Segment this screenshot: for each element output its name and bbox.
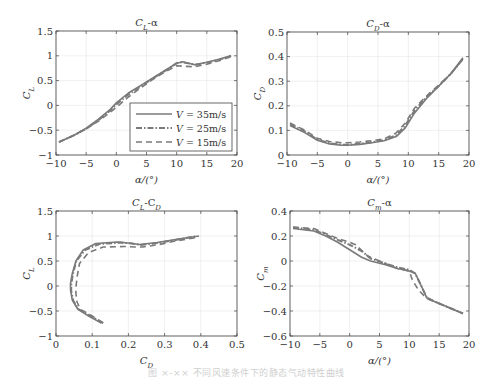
chart-cl-cd: 00.10.20.30.40.5−1−0.500.511.5CL-CDCDCL xyxy=(21,197,245,370)
x-tick-label: 10 xyxy=(403,339,416,350)
y-axis-label: CL xyxy=(21,267,36,280)
x-tick-label: 15 xyxy=(433,339,446,350)
x-tick-label: 15 xyxy=(200,158,213,169)
x-tick-label: 15 xyxy=(432,158,445,169)
chart-cl-alpha: −10−505101520−1−0.500.511.5CL-αα/(°)CLV … xyxy=(21,17,243,185)
x-tick-label: 0 xyxy=(53,339,59,350)
chart-title: CL-CD xyxy=(132,197,161,212)
y-tick-label: −1 xyxy=(38,150,53,161)
y-tick-label: 0 xyxy=(47,281,53,292)
chart-cm-alpha: −10−505101520−0.6−0.4−0.200.20.4Cm-αα/(°… xyxy=(255,197,475,366)
y-tick-label: 0.2 xyxy=(268,100,284,111)
y-tick-label: −0.6 xyxy=(263,331,287,342)
y-tick-label: 1 xyxy=(47,50,53,61)
x-tick-label: −5 xyxy=(312,339,327,350)
x-tick-label: 5 xyxy=(376,339,382,350)
y-tick-label: −0.5 xyxy=(29,125,53,136)
axes-frame xyxy=(56,211,237,336)
x-tick-label: 0.3 xyxy=(157,339,173,350)
x-tick-label: 10 xyxy=(170,158,183,169)
x-tick-label: 0.1 xyxy=(84,339,100,350)
x-tick-label: 20 xyxy=(463,339,476,350)
y-tick-label: 0.5 xyxy=(37,256,53,267)
x-tick-label: 5 xyxy=(143,158,149,169)
chart-title: CL-α xyxy=(135,17,158,32)
x-tick-label: 0.5 xyxy=(229,339,245,350)
y-axis-label: Cm xyxy=(255,266,270,281)
y-tick-label: 1 xyxy=(47,231,53,242)
x-axis-label: α/(°) xyxy=(135,174,158,185)
x-tick-label: 5 xyxy=(375,158,381,169)
y-tick-label: 1.5 xyxy=(37,26,53,37)
y-tick-label: 0.5 xyxy=(37,75,53,86)
y-tick-label: 0.2 xyxy=(271,231,287,242)
chart-title: Cm-α xyxy=(367,197,392,212)
y-tick-label: −0.4 xyxy=(263,306,287,317)
y-tick-label: 0 xyxy=(278,150,284,161)
figure: −10−505101520−1−0.500.511.5CL-αα/(°)CLV … xyxy=(0,0,493,385)
y-axis-label: CD xyxy=(252,86,267,100)
x-tick-label: −5 xyxy=(79,158,94,169)
x-tick-label: 20 xyxy=(463,158,476,169)
y-tick-label: 0 xyxy=(281,256,287,267)
legend-label: V = 35m/s xyxy=(176,109,226,120)
series-line xyxy=(293,229,463,314)
x-tick-label: −5 xyxy=(310,158,325,169)
x-axis-label: α/(°) xyxy=(368,355,391,366)
y-tick-label: 0.4 xyxy=(268,51,284,62)
y-tick-label: 0 xyxy=(47,100,53,111)
figure-caption: 图 ×-×× 不同风速条件下的静态气动特性曲线 xyxy=(0,366,493,379)
y-tick-label: 0.3 xyxy=(268,76,284,87)
series-line xyxy=(71,236,197,323)
x-axis-label: α/(°) xyxy=(367,174,390,185)
y-tick-label: 0.4 xyxy=(271,206,287,217)
series-line xyxy=(290,59,463,145)
x-tick-label: 0 xyxy=(344,158,350,169)
series-line xyxy=(290,58,463,145)
y-axis-label: CL xyxy=(21,87,36,100)
x-tick-label: 0 xyxy=(346,339,352,350)
x-tick-label: 10 xyxy=(402,158,415,169)
y-tick-label: −0.5 xyxy=(29,306,53,317)
legend-label: V = 25m/s xyxy=(176,123,226,134)
y-tick-label: 1.5 xyxy=(37,206,53,217)
series-line xyxy=(76,237,199,323)
y-tick-label: −1 xyxy=(38,331,53,342)
chart-title: CD-α xyxy=(366,18,390,33)
x-tick-label: 20 xyxy=(231,158,244,169)
x-tick-label: 0.4 xyxy=(193,339,209,350)
series-line xyxy=(293,227,463,313)
legend-label: V = 15m/s xyxy=(176,137,226,148)
series-line xyxy=(293,227,463,313)
legend: V = 35m/sV = 25m/sV = 15m/s xyxy=(130,103,232,151)
y-tick-label: 0.5 xyxy=(268,27,284,38)
x-tick-label: 0.2 xyxy=(120,339,136,350)
chart-cd-alpha: −10−50510152000.10.20.30.40.5CD-αα/(°)CD xyxy=(252,18,475,185)
y-tick-label: 0.1 xyxy=(268,125,284,136)
x-tick-label: 0 xyxy=(113,158,119,169)
y-tick-label: −0.2 xyxy=(263,281,287,292)
